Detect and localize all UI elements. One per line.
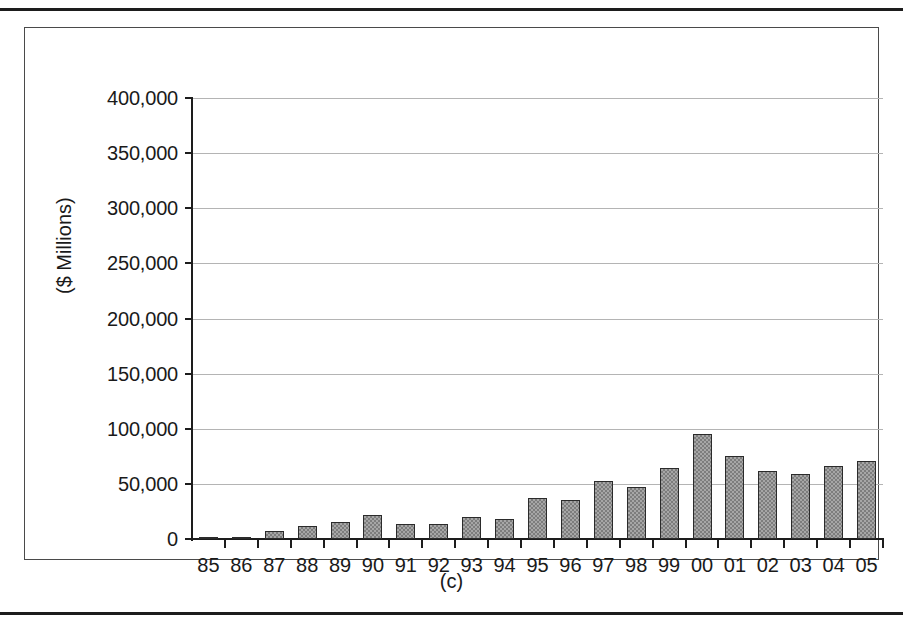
- gridline: [192, 319, 883, 320]
- x-axis-tick: [454, 539, 456, 548]
- bar: [693, 434, 712, 539]
- y-axis-tick-label: 200,000: [107, 307, 178, 330]
- gridline: [192, 374, 883, 375]
- y-axis-tick: [185, 538, 193, 540]
- x-axis-tick: [619, 539, 621, 548]
- figure-page: ($ Millions) 400,000350,000300,000250,00…: [0, 0, 903, 626]
- bar: [824, 466, 843, 539]
- y-axis-tick: [185, 483, 193, 485]
- y-axis-tick: [185, 207, 193, 209]
- y-axis-tick: [185, 318, 193, 320]
- x-axis-tick: [685, 539, 687, 548]
- y-axis-tick-label: 300,000: [107, 197, 178, 220]
- bar: [462, 517, 481, 539]
- y-axis-tick-label: 400,000: [107, 87, 178, 110]
- x-axis-tick: [356, 539, 358, 548]
- bar: [298, 526, 317, 539]
- y-axis-tick-label: 0: [167, 528, 178, 551]
- gridline: [192, 484, 883, 485]
- y-axis-tick-label: 250,000: [107, 252, 178, 275]
- plot-area: 400,000350,000300,000250,000200,000150,0…: [192, 98, 883, 539]
- gridline: [192, 429, 883, 430]
- bar: [331, 522, 350, 539]
- y-axis-tick-label: 50,000: [118, 472, 178, 495]
- x-axis-tick: [553, 539, 555, 548]
- y-axis-tick: [185, 428, 193, 430]
- y-axis-tick-label: 150,000: [107, 362, 178, 385]
- x-axis-tick: [717, 539, 719, 548]
- bar: [396, 524, 415, 539]
- bar: [594, 481, 613, 539]
- x-axis-tick: [652, 539, 654, 548]
- gridline: [192, 208, 883, 209]
- gridline: [192, 263, 883, 264]
- bar: [199, 537, 218, 539]
- bar: [725, 456, 744, 539]
- bar: [528, 498, 547, 539]
- bar: [758, 471, 777, 539]
- bar: [429, 524, 448, 539]
- chart-frame: ($ Millions) 400,000350,000300,000250,00…: [24, 27, 879, 560]
- x-axis-tick: [586, 539, 588, 548]
- x-axis-tick: [487, 539, 489, 548]
- x-axis-tick: [323, 539, 325, 548]
- x-axis-tick: [750, 539, 752, 548]
- x-axis-tick: [882, 539, 884, 548]
- gridline: [192, 153, 883, 154]
- gridline: [192, 98, 883, 99]
- bar: [627, 487, 646, 539]
- x-axis-tick: [849, 539, 851, 548]
- y-axis-tick: [185, 373, 193, 375]
- x-axis-tick: [816, 539, 818, 548]
- bar: [495, 519, 514, 539]
- y-axis-tick: [185, 262, 193, 264]
- x-axis-tick: [783, 539, 785, 548]
- y-axis-tick-label: 350,000: [107, 142, 178, 165]
- bar: [791, 474, 810, 539]
- bar: [232, 537, 251, 539]
- y-axis-tick: [185, 152, 193, 154]
- x-axis-tick: [290, 539, 292, 548]
- y-axis-tick: [185, 97, 193, 99]
- y-axis-title: ($ Millions): [53, 264, 76, 294]
- page-rule-top: [0, 8, 903, 11]
- figure-caption: (c): [0, 570, 903, 593]
- bar: [363, 515, 382, 539]
- page-rule-bottom: [0, 612, 903, 615]
- bar: [561, 500, 580, 539]
- bar: [265, 531, 284, 539]
- bar: [857, 461, 876, 539]
- y-axis-tick-label: 100,000: [107, 417, 178, 440]
- x-axis-tick: [257, 539, 259, 548]
- x-axis-tick: [388, 539, 390, 548]
- x-axis-tick: [224, 539, 226, 548]
- x-axis-tick: [520, 539, 522, 548]
- bar: [660, 468, 679, 539]
- x-axis-tick: [421, 539, 423, 548]
